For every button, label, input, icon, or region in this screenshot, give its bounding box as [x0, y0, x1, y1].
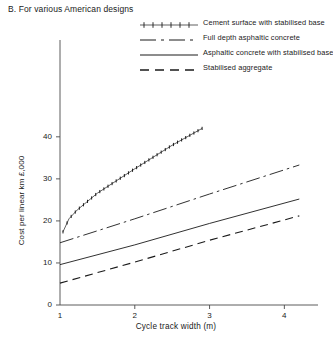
x-tick-1: 1 — [53, 311, 67, 320]
x-tick-2: 2 — [128, 311, 142, 320]
series-1 — [60, 165, 299, 243]
y-tick-40: 40 — [30, 132, 52, 141]
x-tick-3: 3 — [203, 311, 217, 320]
y-tick-10: 10 — [30, 258, 52, 267]
y-tick-0: 0 — [30, 300, 52, 309]
series-2 — [60, 199, 299, 265]
series-3 — [60, 216, 299, 283]
y-tick-20: 20 — [30, 216, 52, 225]
y-axis-title: Cost per linear km £,000 — [17, 126, 26, 276]
series-0 — [63, 127, 202, 234]
y-tick-30: 30 — [30, 174, 52, 183]
x-axis-title: Cycle track width (m) — [60, 322, 292, 331]
x-tick-4: 4 — [277, 311, 291, 320]
